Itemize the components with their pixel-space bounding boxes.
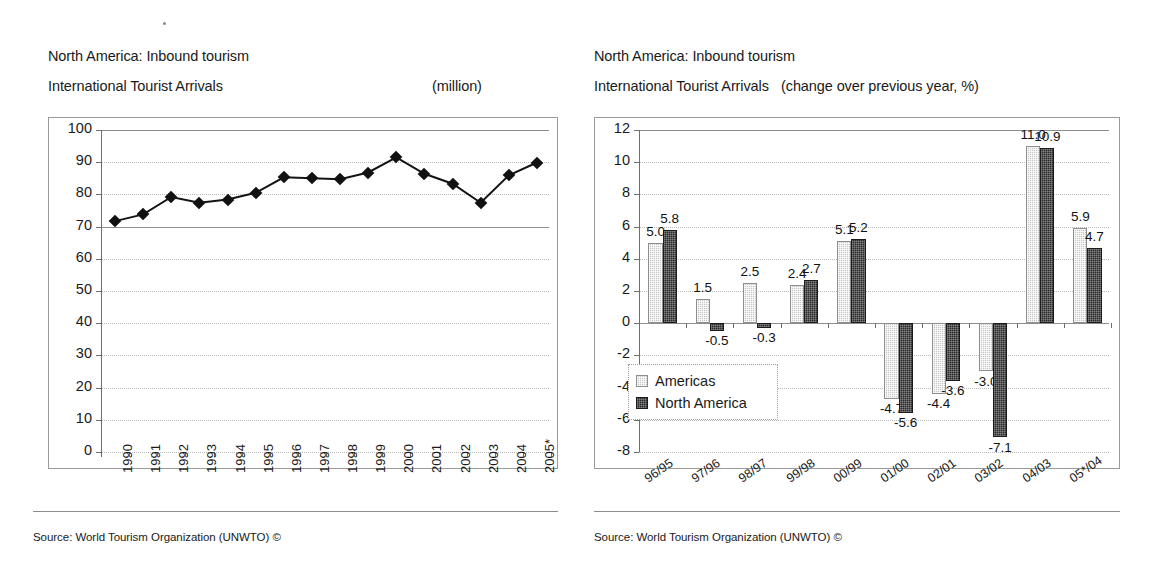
right-chart-y-tick-label: -8 bbox=[595, 442, 630, 458]
right-chart-bar-label: -4.4 bbox=[917, 396, 961, 411]
left-chart-x-tick-label: 2002 bbox=[458, 444, 473, 473]
right-chart-bar-label: 2.7 bbox=[789, 261, 833, 276]
left-chart-x-tick-label: 1991 bbox=[148, 444, 163, 473]
right-chart-x-tick bbox=[969, 323, 970, 328]
right-chart-bar bbox=[710, 323, 724, 331]
right-chart-y-tick-label: -6 bbox=[595, 410, 630, 426]
left-chart-x-tick-label: 1995 bbox=[261, 444, 276, 473]
right-chart-bar-label: 5.2 bbox=[836, 220, 880, 235]
right-chart-bar-label: 1.5 bbox=[681, 280, 725, 295]
right-chart-bar bbox=[743, 283, 757, 323]
right-chart-y-tick-label: 0 bbox=[595, 313, 630, 329]
right-chart-x-tick bbox=[1017, 323, 1018, 328]
right-chart-bar bbox=[1040, 148, 1054, 323]
right-chart-gridline bbox=[639, 355, 1109, 356]
right-chart-bar-label: 2.5 bbox=[728, 264, 772, 279]
left-chart-title-line1: North America: Inbound tourism bbox=[48, 48, 249, 64]
right-chart-bar bbox=[851, 239, 865, 323]
legend-swatch-americas-icon bbox=[636, 375, 648, 387]
left-chart-title-line2: International Tourist Arrivals bbox=[48, 78, 223, 94]
right-chart-panel: North America: Inbound tourism Internati… bbox=[578, 0, 1156, 574]
right-chart-title-line2: International Tourist Arrivals bbox=[594, 78, 769, 94]
right-chart-bar-label: -0.3 bbox=[742, 330, 786, 345]
left-chart-x-tick-label: 1993 bbox=[204, 444, 219, 473]
right-chart-x-tick bbox=[639, 323, 640, 328]
right-chart-x-tick bbox=[686, 323, 687, 328]
left-chart-x-tick-label: 2003 bbox=[486, 444, 501, 473]
right-chart-y-tick-label: 10 bbox=[595, 152, 630, 168]
right-chart-y-tick-label: -2 bbox=[595, 345, 630, 361]
right-chart-bar bbox=[757, 323, 771, 328]
right-chart-x-tick bbox=[1064, 323, 1065, 328]
left-chart-bottom-rule bbox=[33, 511, 558, 512]
right-chart-bar bbox=[946, 323, 960, 381]
right-chart-bar-label: 5.8 bbox=[648, 211, 692, 226]
right-chart-bar bbox=[899, 323, 913, 413]
right-chart-bar bbox=[1026, 146, 1040, 323]
left-chart-x-tick-label: 1990 bbox=[120, 444, 135, 473]
left-chart-panel: North America: Inbound tourism Internati… bbox=[0, 0, 578, 574]
left-chart-x-tick-label: 2004 bbox=[514, 444, 529, 473]
scan-artifact-speck bbox=[163, 22, 166, 25]
right-chart-y-tick-label: 8 bbox=[595, 184, 630, 200]
right-chart-source: Source: World Tourism Organization (UNWT… bbox=[594, 531, 842, 543]
right-chart-bar-label: -5.6 bbox=[884, 415, 928, 430]
left-chart-x-tick-label: 1999 bbox=[373, 444, 388, 473]
right-chart-gridline bbox=[639, 452, 1109, 453]
right-chart-bar-label: 4.7 bbox=[1072, 229, 1116, 244]
legend-label-north-america: North America bbox=[655, 395, 747, 411]
right-chart-y-tick-label: 2 bbox=[595, 281, 630, 297]
right-chart-y-tick-label: 4 bbox=[595, 249, 630, 265]
right-chart-x-tick bbox=[828, 323, 829, 328]
right-chart-bar bbox=[979, 323, 993, 371]
right-chart-bar bbox=[804, 280, 818, 323]
left-chart-x-tick-label: 2000 bbox=[401, 444, 416, 473]
left-chart-unit-label: (million) bbox=[432, 78, 482, 94]
left-chart-plot-area: 0102030405060708090100 bbox=[49, 118, 557, 468]
right-chart-title-line1: North America: Inbound tourism bbox=[594, 48, 795, 64]
right-chart-bar-label: -7.1 bbox=[978, 440, 1022, 455]
right-chart-bar bbox=[790, 285, 804, 324]
right-chart-bar-label: 10.9 bbox=[1025, 129, 1069, 144]
right-chart-y-tick-label: 6 bbox=[595, 217, 630, 233]
right-chart-bar bbox=[1087, 248, 1101, 324]
left-chart-x-tick-label: 1996 bbox=[289, 444, 304, 473]
right-chart-bar bbox=[696, 299, 710, 323]
legend-item-north-america: North America bbox=[636, 392, 768, 414]
left-chart-source: Source: World Tourism Organization (UNWT… bbox=[33, 531, 281, 543]
left-chart-x-tick-label: 1998 bbox=[345, 444, 360, 473]
right-chart-bar-label: -3.6 bbox=[931, 383, 975, 398]
right-chart-x-tick bbox=[781, 323, 782, 328]
left-chart-x-tick-label: 1992 bbox=[176, 444, 191, 473]
right-chart-bar-label: -0.5 bbox=[695, 333, 739, 348]
right-chart-x-tick bbox=[733, 323, 734, 328]
right-chart-bar bbox=[837, 241, 851, 323]
right-chart-bar bbox=[993, 323, 1007, 437]
right-chart-bar bbox=[648, 243, 662, 324]
right-chart-y-tick bbox=[634, 452, 639, 453]
right-chart-y-tick-label: -4 bbox=[595, 378, 630, 394]
left-chart-x-tick-label: 1994 bbox=[233, 444, 248, 473]
right-chart-y-tick-label: 12 bbox=[595, 120, 630, 136]
legend-item-americas: Americas bbox=[636, 370, 768, 392]
right-chart-bottom-rule bbox=[594, 511, 1120, 512]
left-chart-x-tick-label: 2005* bbox=[542, 439, 557, 473]
right-chart-bar-label: 5.9 bbox=[1058, 209, 1102, 224]
legend-swatch-north-america-icon bbox=[636, 397, 648, 409]
left-chart-x-tick-label: 1997 bbox=[317, 444, 332, 473]
right-chart-bar bbox=[884, 323, 898, 399]
right-chart-x-tick bbox=[875, 323, 876, 328]
right-chart-x-tick bbox=[922, 323, 923, 328]
right-chart-bar bbox=[663, 230, 677, 323]
right-chart-unit-label: (change over previous year, %) bbox=[781, 78, 979, 94]
left-chart-line-series bbox=[49, 118, 559, 470]
left-chart-x-tick-label: 2001 bbox=[429, 444, 444, 473]
legend-label-americas: Americas bbox=[655, 373, 715, 389]
left-chart-plot-frame: 0102030405060708090100 bbox=[48, 117, 558, 469]
right-chart-x-tick bbox=[1111, 323, 1112, 328]
right-chart-legend: Americas North America bbox=[628, 364, 778, 420]
